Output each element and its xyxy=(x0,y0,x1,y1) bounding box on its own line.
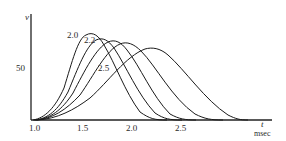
x-tick-2-0: 2.0 xyxy=(126,123,138,133)
x-tick-2-5: 2.5 xyxy=(175,123,187,133)
x-tick-1-0: 1.0 xyxy=(29,123,41,133)
curve-label-2-0: 2.0 xyxy=(67,30,79,40)
curve-3 xyxy=(35,41,196,120)
curve-5 xyxy=(37,48,248,120)
chart: v 50 1.0 1.5 2.0 2.5 t msec 2.0 2.2 2.5 xyxy=(0,0,286,141)
x-axis-unit: msec xyxy=(254,129,271,138)
curve-2-0 xyxy=(33,34,167,120)
y-axis-label: v xyxy=(25,12,29,22)
x-tick-1-5: 1.5 xyxy=(77,123,89,133)
curve-label-2-2: 2.2 xyxy=(84,35,95,45)
curve-2-5 xyxy=(36,43,223,120)
y-tick-50: 50 xyxy=(16,63,26,73)
curves xyxy=(33,34,248,120)
curve-label-2-5: 2.5 xyxy=(98,63,110,73)
